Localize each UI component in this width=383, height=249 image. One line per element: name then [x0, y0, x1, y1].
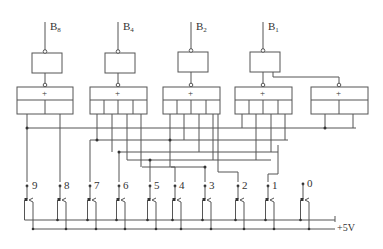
switch-label-4: 4	[179, 180, 185, 191]
output-lines	[45, 22, 263, 51]
switch-label-3: 3	[209, 180, 215, 191]
switch-label-8: 8	[64, 180, 70, 191]
switch-label-7: 7	[94, 180, 100, 191]
or-gate-4-symbol: +	[260, 89, 265, 98]
switch-label-5: 5	[154, 180, 160, 191]
switch-label-6: 6	[123, 180, 129, 191]
switch-label-9: 9	[32, 180, 38, 191]
output-label-b8: B8	[50, 21, 61, 34]
output-label-b2: B2	[196, 21, 207, 34]
or-gate-2-symbol: +	[115, 89, 120, 98]
or-gate-1-symbol: +	[42, 89, 47, 98]
input-wiring	[26, 114, 357, 182]
switch-label-0: 0	[307, 178, 313, 189]
output-label-b4: B4	[123, 21, 134, 34]
circuit-wiring	[0, 0, 383, 249]
output-label-b1: B1	[268, 21, 279, 34]
buffer-boxes	[32, 49, 280, 73]
encoder-circuit-diagram: B8 B4 B2 B1 + + + + + 9 8 7 6 5 4 3 2 1 …	[0, 0, 383, 249]
or-gate-5-symbol: +	[336, 89, 341, 98]
rails	[25, 216, 336, 230]
supply-label: +5V	[337, 223, 355, 233]
switch-label-1: 1	[272, 180, 278, 191]
buffer-to-gate-links	[43, 72, 341, 87]
or-gate-3-symbol: +	[188, 89, 193, 98]
switch-label-2: 2	[242, 180, 248, 191]
